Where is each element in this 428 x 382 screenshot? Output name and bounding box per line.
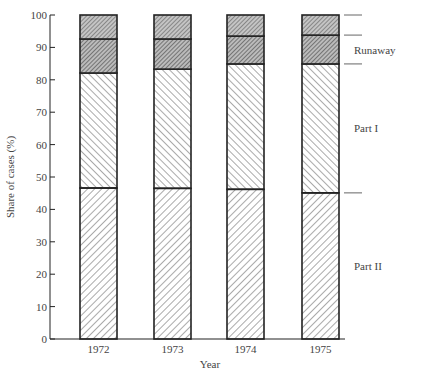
y-tick-label: 10 [36,301,48,313]
bar-1972 [80,15,117,339]
y-tick-label: 30 [36,236,48,248]
bar-segment-part-ii [154,188,191,339]
stacked-bar-chart: 0102030405060708090100 1972197319741975 … [0,0,428,382]
bar-1974 [227,15,264,339]
y-tick-label: 100 [31,9,48,21]
y-tick-label: 90 [36,41,48,53]
bar-segment-top [302,15,339,35]
y-tick-label: 50 [36,171,48,183]
bar-1973 [154,15,191,339]
bar-1975 [302,15,339,339]
x-tick-label: 1974 [235,343,258,355]
legend-label-part-i: Part I [354,122,378,134]
y-tick-label: 80 [36,74,48,86]
bar-segment-part-ii [302,193,339,339]
bar-segment-part-i [154,69,191,188]
x-tick-label: 1975 [310,343,333,355]
legend-label-part-ii: Part II [354,260,382,272]
bar-segment-top [154,15,191,39]
bar-segment-runaway [302,35,339,64]
bar-segment-part-i [302,64,339,193]
legend-label-runaway: Runaway [354,44,396,56]
bar-segment-runaway [227,36,264,64]
bar-segment-top [227,15,264,36]
bar-segment-runaway [154,39,191,69]
x-tick-label: 1972 [88,343,110,355]
y-axis: 0102030405060708090100 [31,9,56,345]
y-tick-label: 20 [36,268,48,280]
legend: Part IIPart IRunaway [344,15,396,272]
bars [80,15,339,339]
y-axis-title: Share of cases (%) [4,136,17,218]
y-tick-label: 60 [36,139,48,151]
bar-segment-part-ii [80,188,117,339]
x-axis: 1972197319741975 [50,339,345,355]
bar-segment-part-ii [227,189,264,339]
y-tick-label: 40 [36,203,48,215]
bar-segment-part-i [227,64,264,189]
x-axis-title: Year [200,358,221,370]
x-tick-label: 1973 [162,343,185,355]
y-tick-label: 0 [42,333,48,345]
bar-segment-part-i [80,73,117,188]
bar-segment-top [80,15,117,39]
y-tick-label: 70 [36,106,48,118]
bar-segment-runaway [80,39,117,73]
